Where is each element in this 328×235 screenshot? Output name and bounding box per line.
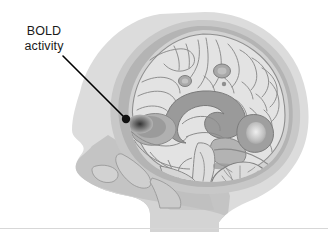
- bottom-divider: [0, 228, 328, 229]
- brain-figure: BOLD activity: [0, 0, 328, 235]
- bold-activity-marker: [122, 115, 130, 123]
- bold-activity-label: BOLD activity: [8, 24, 80, 54]
